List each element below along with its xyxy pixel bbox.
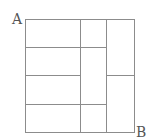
point-a-label: A [12, 12, 22, 26]
vertical-dividers [81, 20, 107, 133]
grid-lines [0, 0, 148, 139]
grid-diagram: A B [0, 0, 148, 139]
point-b-label: B [136, 125, 146, 139]
